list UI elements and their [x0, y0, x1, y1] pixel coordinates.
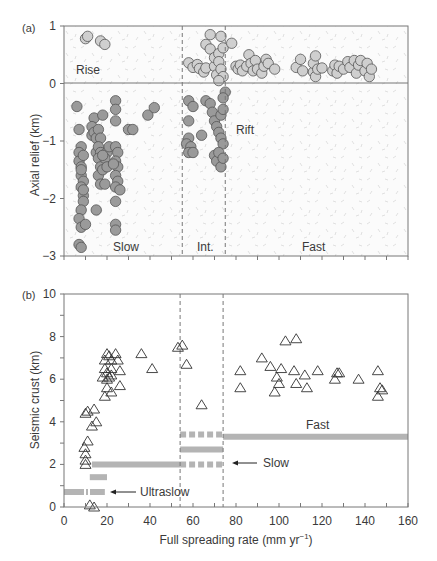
data-point: [110, 116, 120, 126]
data-point: [310, 51, 320, 61]
data-point: [184, 116, 194, 126]
data-point: [110, 225, 120, 235]
data-point: [72, 101, 82, 111]
y-tick-label: −3: [42, 249, 56, 263]
data-point: [82, 31, 92, 41]
data-point: [188, 147, 198, 157]
data-point: [205, 29, 215, 39]
annotation-slow-label: Slow: [263, 456, 289, 470]
region-label-slow: Slow: [113, 240, 139, 254]
y-tick-label: 8: [49, 330, 56, 344]
data-point: [128, 124, 138, 134]
data-point: [108, 159, 118, 169]
data-point: [149, 102, 159, 112]
y-tick-label: 0: [49, 500, 56, 514]
annotation-ultraslow-label: Ultraslow: [140, 485, 190, 499]
data-point: [295, 54, 305, 64]
x-tick-label: 0: [61, 514, 68, 528]
panel-a-label: (a): [22, 22, 35, 34]
data-point: [317, 63, 327, 73]
data-point: [80, 219, 90, 229]
x-tick-label: 100: [269, 514, 289, 528]
x-tick-label: 160: [398, 514, 418, 528]
panel-b-ylabel: Seismic crust (km): [28, 351, 42, 450]
x-tick-label: 80: [229, 514, 243, 528]
panel-b-label: (b): [22, 289, 35, 301]
y-tick-label: 0: [49, 77, 56, 91]
x-axis-label: Full spreading rate (mm yr−1): [159, 532, 312, 547]
data-point: [366, 64, 376, 74]
y-tick-label: 6: [49, 372, 56, 386]
y-tick-label: 4: [49, 415, 56, 429]
data-point: [100, 39, 110, 49]
data-point: [98, 150, 108, 160]
x-tick-label: 60: [186, 514, 200, 528]
data-point: [216, 31, 226, 41]
region-label-fast: Fast: [302, 240, 326, 254]
annotation-fast-label: Fast: [306, 418, 330, 432]
data-point: [227, 38, 237, 48]
x-tick-label: 140: [355, 514, 375, 528]
data-point: [270, 64, 280, 74]
data-point: [218, 104, 228, 114]
data-point: [218, 153, 228, 163]
data-point: [78, 150, 88, 160]
figure: 10−1−2−3 (a) Axial relief (km) Rise Rift…: [0, 0, 437, 561]
data-point: [218, 93, 228, 103]
y-tick-label: 2: [49, 457, 56, 471]
data-point: [74, 124, 84, 134]
y-tick-label: 10: [43, 287, 57, 301]
data-point: [214, 75, 224, 85]
data-point: [188, 101, 198, 111]
panel-b-plot-area: [64, 294, 408, 507]
x-tick-label: 120: [312, 514, 332, 528]
x-tick-label: 20: [100, 514, 114, 528]
data-point: [91, 205, 101, 215]
data-point: [100, 179, 110, 189]
data-point: [297, 66, 307, 76]
region-label-rift: Rift: [236, 123, 255, 137]
data-point: [76, 165, 86, 175]
data-point: [110, 196, 120, 206]
data-point: [196, 130, 206, 140]
region-label-rise: Rise: [76, 63, 100, 77]
panel-a-ylabel: Axial relief (km): [28, 114, 42, 197]
data-point: [110, 104, 120, 114]
x-tick-label: 40: [143, 514, 157, 528]
data-point: [98, 110, 108, 120]
y-tick-label: 1: [49, 19, 56, 33]
data-point: [78, 185, 88, 195]
panel-b: 0204060801001201401600246810 (b) Seismic…: [22, 287, 418, 547]
panel-a: 10−1−2−3 (a) Axial relief (km) Rise Rift…: [22, 19, 408, 263]
region-label-int: Int.: [197, 240, 214, 254]
y-tick-label: −2: [42, 192, 56, 206]
data-point: [76, 242, 86, 252]
y-tick-label: −1: [42, 134, 56, 148]
data-point: [115, 185, 125, 195]
